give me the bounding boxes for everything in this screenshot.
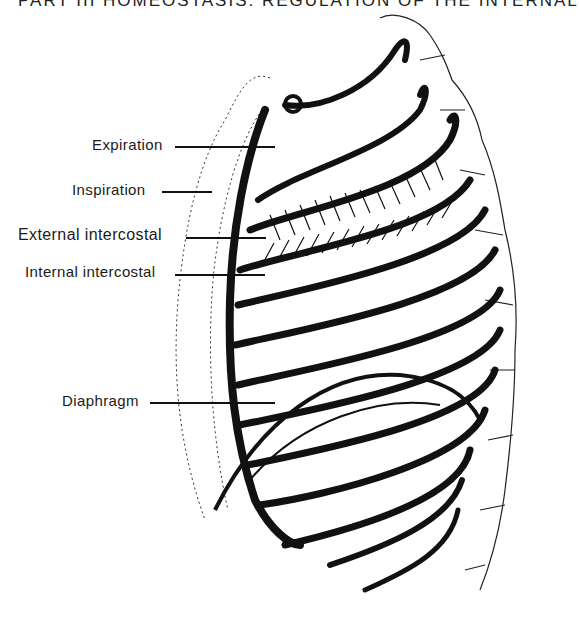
label-inspiration: Inspiration <box>72 181 146 198</box>
label-internal-intercostal: Internal intercostal <box>25 263 156 280</box>
leader-line-internal-intercostal <box>175 274 265 276</box>
label-expiration: Expiration <box>92 136 163 153</box>
leader-line-expiration <box>175 146 275 148</box>
leader-line-external-intercostal <box>186 237 266 239</box>
label-diaphragm: Diaphragm <box>62 392 139 409</box>
leader-line-inspiration <box>162 191 212 193</box>
ribs <box>230 41 500 590</box>
label-external-intercostal: External intercostal <box>18 226 162 244</box>
leader-line-diaphragm <box>150 402 275 404</box>
